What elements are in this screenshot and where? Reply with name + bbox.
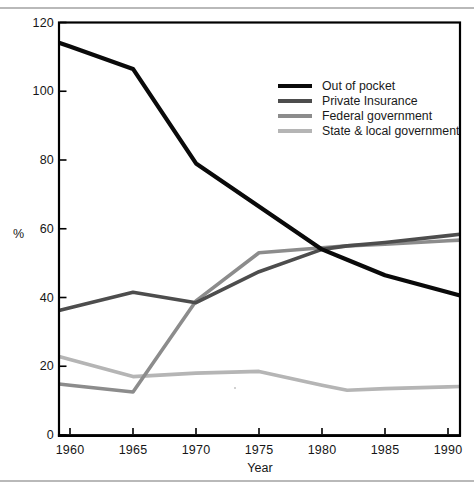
- line-chart-canvas: [0, 0, 474, 489]
- x-tick-label: 1960: [48, 444, 92, 457]
- y-tick-label: 0: [18, 429, 54, 442]
- x-axis-label: Year: [247, 461, 272, 475]
- legend-item-state-local-government: State & local government: [278, 123, 459, 138]
- chart-figure: 0 20 40 60 80 100 120 1960 1965 1970 197…: [0, 0, 474, 489]
- x-tick-label: 1965: [111, 444, 155, 457]
- y-tick-label: 20: [18, 360, 54, 373]
- line-private-insurance: [59, 234, 460, 310]
- legend-swatch-federal-government: [278, 114, 312, 118]
- x-tick-label: 1990: [426, 444, 470, 457]
- y-tick-label: 80: [18, 154, 54, 167]
- x-tick-label: 1980: [300, 444, 344, 457]
- line-state-local-government: [59, 356, 460, 390]
- legend-label: Private Insurance: [322, 95, 418, 107]
- x-tick-label: 1970: [174, 444, 218, 457]
- legend-label: Out of pocket: [322, 80, 395, 92]
- line-federal-government: [59, 240, 460, 392]
- legend-label: State & local government: [322, 125, 459, 137]
- legend-item-federal-government: Federal government: [278, 109, 459, 124]
- legend-swatch-private-insurance: [278, 99, 312, 103]
- legend-item-private-insurance: Private Insurance: [278, 94, 459, 109]
- legend-item-out-of-pocket: Out of pocket: [278, 79, 459, 94]
- x-tick-label: 1985: [363, 444, 407, 457]
- y-axis-label: %: [13, 227, 24, 241]
- legend: Out of pocket Private Insurance Federal …: [278, 79, 459, 138]
- legend-swatch-state-local-government: [278, 129, 312, 133]
- x-tick-label: 1975: [237, 444, 281, 457]
- scan-artifact-dot: [234, 387, 236, 389]
- y-tick-label: 120: [18, 16, 54, 29]
- legend-swatch-out-of-pocket: [278, 84, 312, 88]
- y-tick-label: 100: [18, 85, 54, 98]
- y-tick-label: 40: [18, 291, 54, 304]
- legend-label: Federal government: [322, 110, 432, 122]
